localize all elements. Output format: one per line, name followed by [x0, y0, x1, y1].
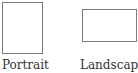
portrait-option[interactable]: Portrait — [0, 0, 46, 73]
landscape-label: Landscape — [80, 58, 138, 72]
landscape-option[interactable]: Landscape — [78, 0, 138, 73]
portrait-label: Portrait — [2, 58, 49, 72]
landscape-page-icon[interactable] — [82, 9, 137, 42]
portrait-page-icon[interactable] — [2, 2, 43, 54]
